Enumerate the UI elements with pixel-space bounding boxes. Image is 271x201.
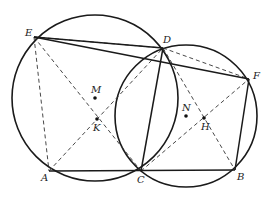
label-a: A	[40, 172, 48, 183]
dashed-segment-ad	[49, 48, 163, 171]
solid-lines	[34, 37, 249, 171]
label-e: E	[24, 27, 33, 38]
label-f: F	[252, 70, 261, 81]
dashed-lines	[34, 37, 249, 171]
point-k	[95, 117, 99, 121]
point-n	[184, 114, 188, 118]
dashed-segment-df	[163, 48, 249, 79]
segment-ab	[49, 170, 235, 171]
segment-fb	[235, 79, 249, 170]
segment-ed	[34, 37, 163, 48]
dashed-segment-db	[163, 48, 235, 170]
label-n: N	[181, 102, 192, 113]
dashed-segment-cf	[141, 79, 249, 171]
label-d: D	[162, 34, 171, 45]
label-c: C	[137, 174, 145, 185]
label-h: H	[200, 121, 210, 132]
label-b: B	[236, 171, 244, 182]
geometry-diagram: ABCDEFMNKH	[0, 0, 271, 201]
point-h	[202, 116, 206, 120]
point-m	[93, 96, 97, 100]
label-k: K	[92, 122, 101, 133]
label-m: M	[90, 84, 102, 95]
circles	[12, 15, 257, 187]
dashed-segment-ea	[34, 37, 49, 171]
segment-cd	[141, 48, 163, 171]
segment-ef	[34, 37, 249, 79]
